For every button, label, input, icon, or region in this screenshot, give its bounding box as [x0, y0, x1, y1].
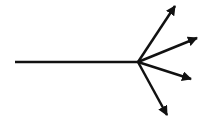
arrow-group	[138, 6, 197, 115]
branching-arrows-diagram	[0, 0, 207, 121]
